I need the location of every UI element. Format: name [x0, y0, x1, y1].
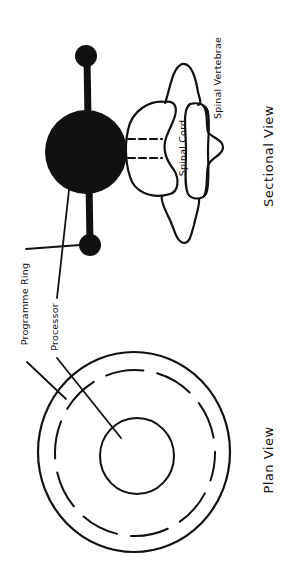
label-spinal-vertebrae: Spinal Vertebrae [213, 37, 223, 119]
sectional-view [26, 45, 223, 298]
processor-ball [45, 110, 127, 194]
ring-knob-top [75, 45, 97, 67]
label-programme-ring: Programme Ring [20, 263, 30, 345]
processor-leader-plan [57, 358, 121, 438]
vertebra-left-lobe [126, 102, 178, 196]
vertebra-right-lobe [185, 103, 209, 198]
outer-circle [38, 352, 230, 552]
processor-circle [100, 418, 174, 494]
ring-leader-plan [27, 362, 66, 399]
label-processor: Processor [50, 303, 60, 351]
plan-view [27, 352, 230, 552]
label-plan-view: Plan View [262, 426, 275, 493]
ring-knob-bottom [79, 234, 101, 256]
ring-leader-sectional [26, 245, 80, 249]
programme-ring-dashed [55, 370, 215, 536]
processor-leader-sectional [57, 190, 69, 298]
label-spinal-cord: Spinal Cord [178, 120, 188, 177]
diagram-canvas [0, 0, 295, 581]
label-sectional-view: Sectional View [262, 105, 275, 207]
